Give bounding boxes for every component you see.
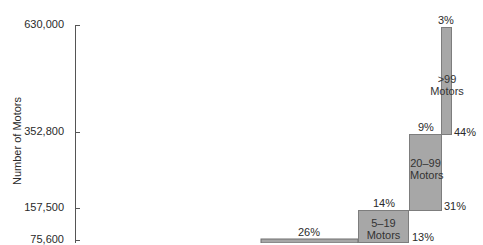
- bar-5-19-label-line1: 5–19: [359, 217, 408, 229]
- y-axis-label: Number of Motors: [11, 81, 23, 201]
- bar-20-99-right-percent: 31%: [444, 200, 466, 212]
- y-tick-630000: 630,000: [0, 18, 64, 30]
- bar-20-99: 20–99 Motors: [409, 134, 442, 211]
- y-tick-157500: 157,500: [0, 201, 64, 213]
- bar-5-19-right-percent: 13%: [412, 231, 434, 243]
- bar-20-99-label-line2: Motors: [410, 169, 441, 181]
- bar-gt99-label-line2: Motors: [428, 85, 466, 97]
- bar-5-19-top-percent: 14%: [373, 197, 395, 209]
- bar-20-99-label-line1: 20–99: [410, 157, 441, 169]
- bar-gt99-label-line1: >99: [428, 73, 466, 85]
- bar-5-19: 5–19 Motors: [358, 210, 409, 243]
- bar-20-99-top-percent: 9%: [418, 121, 434, 133]
- y-tick-75600: 75,600: [0, 233, 64, 245]
- bar-5-19-label-line2: Motors: [359, 229, 408, 241]
- bar-gt99-right-percent: 44%: [454, 126, 476, 138]
- bar-lt5-top-percent: 26%: [298, 226, 320, 238]
- bar-gt99-top-percent: 3%: [438, 14, 454, 26]
- y-tick-352800: 352,800: [0, 125, 64, 137]
